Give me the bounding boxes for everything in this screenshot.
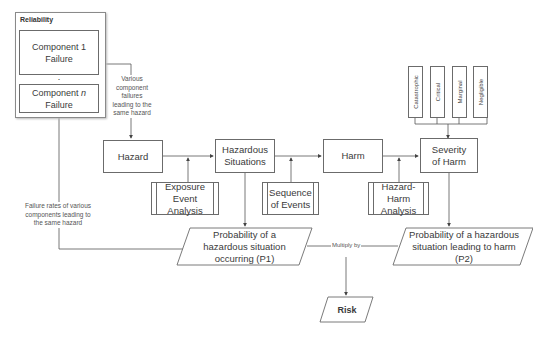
harm-box[interactable]: Harm: [323, 139, 383, 173]
reliability-title: Reliability: [20, 16, 53, 23]
hazardous-situations-box[interactable]: Hazardous Situations: [215, 139, 275, 173]
multiply-by-label: Multiply by: [331, 242, 361, 248]
severity-marginal[interactable]: Marginal: [452, 66, 467, 118]
failure-rates-note: Failure rates of various components lead…: [22, 202, 94, 228]
hazard-box[interactable]: Hazard: [103, 140, 163, 173]
severity-catastrophic[interactable]: Catastrophic: [408, 66, 423, 118]
severity-negligible[interactable]: Negligible: [473, 66, 488, 118]
severity-of-harm-box[interactable]: Severity of Harm: [420, 138, 478, 173]
component-1-failure-box[interactable]: Component 1 Failure: [19, 30, 99, 75]
hazard-harm-analysis-box[interactable]: Hazard-Harm Analysis: [368, 182, 429, 215]
severity-critical[interactable]: Critical: [430, 66, 445, 118]
p1-label[interactable]: Probability of a hazardous situation occ…: [192, 228, 297, 265]
component-n-failure-box[interactable]: Component n Failure: [19, 84, 99, 113]
component-1-label: Component 1 Failure: [29, 41, 89, 65]
sequence-of-events-box[interactable]: Sequence of Events: [262, 182, 319, 215]
risk-label[interactable]: Risk: [322, 297, 372, 322]
component-n-label: Component n Failure: [28, 87, 90, 111]
various-failures-note: Various component failures leading to th…: [111, 75, 153, 118]
p2-label[interactable]: Probability of a hazardous situation lea…: [408, 228, 520, 265]
exposure-event-analysis-box[interactable]: Exposure Event Analysis: [151, 182, 219, 215]
